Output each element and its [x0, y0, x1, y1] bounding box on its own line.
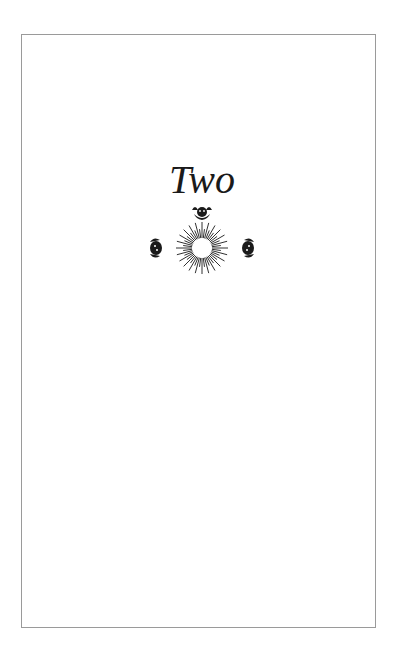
sunburst-with-cherubs-icon: [142, 200, 262, 280]
cherub-left-icon: [150, 238, 162, 257]
cherub-right-icon: [242, 238, 254, 257]
page-frame: [21, 34, 376, 628]
chapter-title: Two: [0, 158, 404, 202]
cherub-top-icon: [192, 207, 212, 220]
